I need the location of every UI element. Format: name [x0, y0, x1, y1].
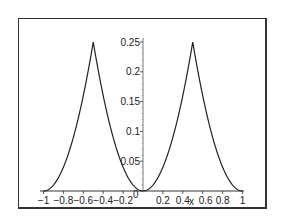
x-tick-label: 0.2: [156, 195, 170, 206]
x-tick-label: −0.2: [113, 195, 133, 206]
x-tick-label: 0.6: [199, 195, 213, 206]
axes: [40, 38, 244, 191]
x-tick-label: 0.8: [216, 195, 230, 206]
y-tick-label: 0.1: [126, 126, 140, 137]
x-tick-label: 1: [240, 195, 246, 206]
y-tick-label: 0.05: [121, 156, 141, 167]
x-axis-label: x: [189, 196, 194, 207]
y-tick-label: 0.2: [126, 66, 140, 77]
y-tick-label: 0.25: [121, 37, 141, 48]
origin-label: 0: [133, 189, 139, 200]
plot-canvas: −1−0.8−0.6−0.4−0.20.20.40.60.81 0.050.10…: [0, 0, 281, 220]
x-ticks: −1−0.8−0.6−0.4−0.20.20.40.60.81: [38, 191, 246, 206]
x-tick-label: −0.8: [54, 195, 74, 206]
y-ticks: 0.050.10.150.20.25: [121, 37, 143, 186]
y-tick-label: 0.15: [121, 96, 141, 107]
x-tick-label: −1: [38, 195, 50, 206]
x-tick-label: −0.4: [93, 195, 113, 206]
x-tick-label: −0.6: [73, 195, 93, 206]
